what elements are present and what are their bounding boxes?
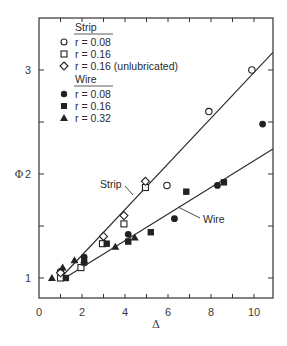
- filled-square-marker: [221, 179, 227, 185]
- annotation-strip: Strip: [100, 178, 133, 195]
- y-axis: 123: [25, 64, 273, 284]
- open-circle-marker: [249, 67, 255, 73]
- legend-label-wire-r016: r = 0.16: [75, 100, 111, 112]
- legend-open-square-icon: [61, 51, 67, 57]
- x-tick-label: 4: [122, 306, 128, 318]
- legend-open-diamond-icon: [60, 62, 68, 70]
- annotation-wire: Wire: [178, 207, 225, 225]
- filled-square-marker: [125, 238, 131, 244]
- filled-circle-marker: [214, 182, 221, 189]
- annotation-strip-label: Strip: [100, 178, 122, 190]
- legend-filled-circle-icon: [61, 91, 67, 97]
- legend-label-strip-r016-unlubricated: r = 0.16 (unlubricated): [75, 60, 178, 72]
- fit-line-wire: [65, 149, 273, 278]
- annotation-wire-label: Wire: [203, 213, 225, 225]
- filled-circle-marker: [259, 121, 266, 128]
- filled-square-marker: [148, 229, 154, 235]
- filled-triangle-marker: [111, 243, 119, 250]
- y-tick-label: 2: [25, 168, 31, 180]
- legend-filled-square-icon: [61, 103, 67, 109]
- y-axis-title: Φ: [14, 168, 23, 181]
- legend-label-strip-r016: r = 0.16: [75, 48, 111, 60]
- filled-triangle-marker: [48, 274, 56, 281]
- x-tick-label: 6: [165, 306, 171, 318]
- filled-square-marker: [63, 275, 69, 281]
- legend-heading-wire: Wire: [75, 73, 97, 85]
- x-tick-label: 0: [36, 306, 42, 318]
- filled-square-marker: [183, 188, 189, 194]
- legend-label-strip-r008: r = 0.08: [75, 36, 111, 48]
- filled-triangle-marker: [59, 264, 67, 271]
- x-tick-label: 2: [79, 306, 85, 318]
- scatter-chart: 0246810 123 Δ Φ Strip Wire Strip r = 0.0…: [0, 0, 287, 346]
- x-tick-label: 8: [208, 306, 214, 318]
- open-circle-marker: [164, 182, 170, 188]
- x-axis-title: Δ: [152, 318, 160, 331]
- y-tick-label: 1: [25, 272, 31, 284]
- open-circle-marker: [206, 108, 212, 114]
- legend-label-wire-r008: r = 0.08: [75, 88, 111, 100]
- legend-heading-strip: Strip: [75, 21, 97, 33]
- filled-square-marker: [104, 240, 110, 246]
- x-tick-label: 10: [248, 306, 260, 318]
- legend-open-circle-icon: [61, 39, 67, 45]
- legend-filled-triangle-icon: [60, 114, 68, 121]
- filled-circle-marker: [125, 231, 132, 238]
- filled-circle-marker: [171, 215, 178, 222]
- open-diamond-marker: [100, 232, 108, 240]
- y-tick-label: 3: [25, 64, 31, 76]
- legend: Strip r = 0.08 r = 0.16 r = 0.16 (unlubr…: [60, 21, 178, 124]
- legend-label-wire-r032: r = 0.32: [75, 112, 111, 124]
- open-square-marker: [121, 221, 127, 227]
